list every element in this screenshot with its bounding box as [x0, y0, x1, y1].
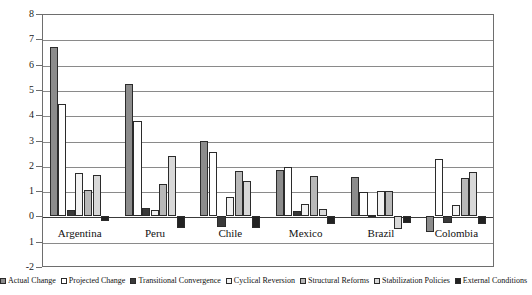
- bar: [377, 191, 385, 216]
- y-tick-label-0: 0: [4, 211, 34, 221]
- bar: [226, 197, 234, 216]
- legend-item[interactable]: Transitional Convergence: [130, 276, 220, 286]
- category-label-brazil: Brazil: [343, 227, 418, 239]
- bar: [93, 175, 101, 217]
- bar: [84, 190, 92, 217]
- bar: [284, 167, 292, 216]
- bar: [243, 181, 251, 216]
- bar: [151, 210, 159, 216]
- bar: [177, 216, 185, 227]
- bar: [301, 204, 309, 217]
- bar: [368, 215, 376, 217]
- category-label-argentina: Argentina: [42, 227, 117, 239]
- legend-label: Cyclical Reversion: [234, 276, 295, 285]
- y-tick-label--2: -2: [4, 262, 34, 272]
- bar: [403, 216, 411, 222]
- legend-label: Transitional Convergence: [138, 276, 220, 285]
- y-tick-label-1: 1: [4, 186, 34, 196]
- legend-swatch-icon: [226, 278, 232, 284]
- legend-swatch-icon: [374, 278, 380, 284]
- category-label-chile: Chile: [193, 227, 268, 239]
- bar: [235, 171, 243, 217]
- legend-item[interactable]: Cyclical Reversion: [226, 276, 295, 286]
- bar: [478, 216, 486, 224]
- legend-item[interactable]: Projected Change: [61, 276, 126, 286]
- category-label-colombia: Colombia: [419, 227, 494, 239]
- y-tick-label-7: 7: [4, 34, 34, 44]
- legend-item[interactable]: Stabilization Policies: [374, 276, 450, 286]
- bar: [142, 208, 150, 217]
- chart-legend: Actual ChangeProjected ChangeTransitiona…: [0, 276, 510, 286]
- legend-swatch-icon: [61, 278, 67, 284]
- bar: [168, 156, 176, 217]
- bar: [101, 216, 109, 221]
- bar: [359, 192, 367, 216]
- legend-label: Structural Reforms: [308, 276, 369, 285]
- y-tick-label-3: 3: [4, 136, 34, 146]
- bar: [351, 177, 359, 216]
- bar: [385, 191, 393, 216]
- y-tick-label-2: 2: [4, 161, 34, 171]
- bar: [252, 216, 260, 227]
- bar: [58, 104, 66, 217]
- bar: [310, 176, 318, 216]
- bar: [133, 121, 141, 217]
- category-label-mexico: Mexico: [268, 227, 343, 239]
- bar: [159, 184, 167, 217]
- legend-label: External Conditions: [463, 276, 527, 285]
- bar: [469, 172, 477, 216]
- bar: [200, 141, 208, 217]
- bar: [319, 209, 327, 217]
- legend-item[interactable]: Structural Reforms: [300, 276, 369, 286]
- legend-swatch-icon: [300, 278, 306, 284]
- bar: [276, 170, 284, 217]
- legend-label: Stabilization Policies: [382, 276, 450, 285]
- legend-item[interactable]: External Conditions: [455, 276, 527, 286]
- category-label-peru: Peru: [117, 227, 192, 239]
- bar: [125, 84, 133, 217]
- y-tick-label-4: 4: [4, 110, 34, 120]
- bar: [293, 211, 301, 216]
- y-tick-label-5: 5: [4, 85, 34, 95]
- legend-label: Actual Change: [8, 276, 56, 285]
- bar: [209, 152, 217, 217]
- y-tick--2: [36, 267, 42, 268]
- bar: [75, 173, 83, 216]
- legend-label: Projected Change: [69, 276, 126, 285]
- bar: [452, 205, 460, 216]
- legend-swatch-icon: [0, 278, 6, 284]
- bar: [327, 216, 335, 224]
- legend-item[interactable]: Actual Change: [0, 276, 56, 286]
- bar: [443, 216, 451, 222]
- bar: [461, 178, 469, 216]
- bar: [435, 159, 443, 216]
- y-tick-label-6: 6: [4, 60, 34, 70]
- bar: [50, 47, 58, 217]
- y-tick-label--1: 1: [4, 237, 34, 247]
- bar: [67, 210, 75, 216]
- bar: [217, 216, 225, 226]
- legend-swatch-icon: [455, 278, 461, 284]
- legend-swatch-icon: [130, 278, 136, 284]
- y-tick-label-8: 8: [4, 9, 34, 19]
